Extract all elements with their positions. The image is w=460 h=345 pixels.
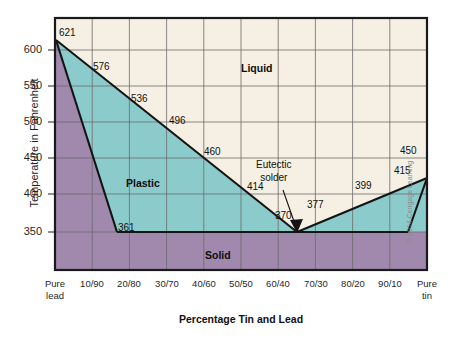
- eutectic-annotation: Eutectic solder: [256, 158, 292, 184]
- phase-diagram-figure: Temperature in Fahrenheit 600 550 500 45…: [0, 0, 460, 345]
- y-tick-label-450: 450: [6, 151, 42, 163]
- data-label-621: 621: [59, 27, 76, 38]
- x-axis-title: Percentage Tin and Lead: [55, 313, 427, 325]
- region-label-plastic: Plastic: [126, 177, 160, 189]
- eutectic-annotation-line2: solder: [256, 171, 292, 184]
- x-tick-label-pure-tin-line2: tin: [404, 290, 450, 302]
- y-axis-title: Temperature in Fahrenheit: [28, 43, 40, 243]
- data-label-460: 460: [204, 146, 221, 157]
- data-label-370: 370: [275, 210, 292, 221]
- y-tick-label-400: 400: [6, 187, 42, 199]
- data-label-536: 536: [131, 93, 148, 104]
- x-tick-label-pure-lead-line2: lead: [32, 290, 78, 302]
- data-label-576: 576: [93, 61, 110, 72]
- data-label-377: 377: [307, 199, 324, 210]
- region-label-solid: Solid: [205, 249, 231, 261]
- y-tick-label-550: 550: [6, 79, 42, 91]
- eutectic-annotation-line1: Eutectic: [256, 158, 292, 171]
- data-label-399: 399: [355, 180, 372, 191]
- y-tick-label-350: 350: [6, 225, 42, 237]
- data-label-361: 361: [118, 222, 135, 233]
- data-label-496: 496: [169, 115, 186, 126]
- x-tick-label-pure-tin: Pure tin: [404, 278, 450, 302]
- y-tick-label-500: 500: [6, 115, 42, 127]
- region-label-liquid: Liquid: [241, 62, 273, 74]
- copyright-credit: © 2014 Cengage Learning: [406, 143, 413, 243]
- y-tick-label-600: 600: [6, 43, 42, 55]
- x-tick-label-pure-tin-line1: Pure: [404, 278, 450, 290]
